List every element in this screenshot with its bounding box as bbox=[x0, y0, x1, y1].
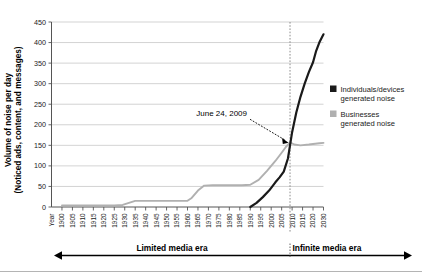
y-tick-label: 450 bbox=[34, 18, 46, 27]
y-axis-title-line1: Volume of noise per day bbox=[4, 73, 13, 167]
x-tick-label: 1925 bbox=[111, 213, 118, 228]
x-tick-label: 1940 bbox=[142, 213, 149, 228]
x-tick-label: 1965 bbox=[194, 213, 201, 228]
x-tick-label: 1905 bbox=[69, 213, 76, 228]
x-tick-label: 2030 bbox=[320, 213, 327, 228]
y-tick-label: 400 bbox=[34, 38, 46, 47]
x-tick-label: 2015 bbox=[299, 213, 306, 228]
x-tick-label: 2020 bbox=[309, 213, 316, 228]
y-tick-label: 50 bbox=[38, 182, 46, 191]
x-tick-label: 1970 bbox=[205, 213, 212, 228]
y-tick-label: 0 bbox=[42, 203, 46, 212]
x-tick-label: 2000 bbox=[268, 213, 275, 228]
x-axis-origin-label: Year bbox=[48, 213, 55, 227]
x-tick-label: 1975 bbox=[215, 213, 222, 228]
x-tick-label: 1915 bbox=[90, 213, 97, 228]
legend-swatch-businesses bbox=[330, 111, 337, 118]
x-tick-label: 1935 bbox=[132, 213, 139, 228]
y-tick-label: 300 bbox=[34, 79, 46, 88]
chart-figure: 050100150200250300350400450 190019051910… bbox=[0, 0, 422, 274]
x-tick-label: 2010 bbox=[289, 213, 296, 228]
x-tick-label: 1995 bbox=[257, 213, 264, 228]
x-tick-label: 2005 bbox=[278, 213, 285, 228]
noise-volume-line-chart: 050100150200250300350400450 190019051910… bbox=[0, 0, 422, 274]
y-tick-label: 200 bbox=[34, 120, 46, 129]
legend-swatch-individuals bbox=[330, 86, 337, 93]
y-tick-label: 100 bbox=[34, 161, 46, 170]
legend-label-individuals-line1: Individuals/devices bbox=[341, 85, 405, 94]
legend-label-businesses-line1: Businesses bbox=[341, 110, 380, 119]
figure-background bbox=[0, 0, 422, 274]
x-tick-label: 1950 bbox=[163, 213, 170, 228]
y-axis-title-line2: (Noticed ads, content, and messages) bbox=[14, 46, 23, 193]
era-label-infinite: Infinite media era bbox=[293, 243, 362, 253]
x-tick-label: 1945 bbox=[153, 213, 160, 228]
y-tick-label: 350 bbox=[34, 59, 46, 68]
x-tick-label: 1900 bbox=[58, 213, 65, 228]
annotation-label: June 24, 2009 bbox=[196, 109, 247, 118]
x-tick-label: 1910 bbox=[79, 213, 86, 228]
x-tick-label: 1955 bbox=[173, 213, 180, 228]
x-tick-label: 1985 bbox=[236, 213, 243, 228]
x-tick-label: 1960 bbox=[184, 213, 191, 228]
legend-label-individuals-line2: generated noise bbox=[341, 94, 395, 103]
x-tick-label: 1980 bbox=[226, 213, 233, 228]
legend-label-businesses-line2: generated noise bbox=[341, 119, 395, 128]
x-tick-label: 1930 bbox=[121, 213, 128, 228]
era-label-limited: Limited media era bbox=[136, 243, 208, 253]
y-tick-label: 250 bbox=[34, 100, 46, 109]
x-tick-label: 1990 bbox=[247, 213, 254, 228]
x-tick-label: 1920 bbox=[100, 213, 107, 228]
y-tick-label: 150 bbox=[34, 141, 46, 150]
